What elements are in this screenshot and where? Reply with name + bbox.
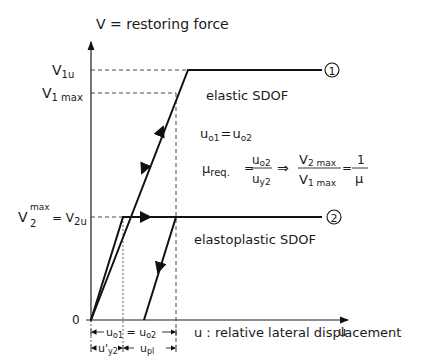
tick-v1u: V1u bbox=[52, 62, 74, 80]
svg-text:2: 2 bbox=[30, 218, 36, 229]
svg-text:uo2: uo2 bbox=[252, 153, 271, 168]
svg-text:V1 max: V1 max bbox=[299, 172, 337, 188]
tick-v2: V max 2 = V2u bbox=[18, 202, 87, 229]
elastic-curve bbox=[91, 70, 322, 320]
svg-text:⇒: ⇒ bbox=[277, 160, 289, 176]
svg-text:V2 max: V2 max bbox=[299, 152, 337, 168]
elastoplastic-label: elastoplastic SDOF bbox=[194, 232, 316, 247]
svg-text:upl: upl bbox=[140, 342, 154, 356]
x-axis-description: u : relative lateral displacement bbox=[194, 325, 401, 340]
svg-text:μ: μ bbox=[355, 171, 363, 186]
force-displacement-diagram: V = restoring force u 0 V1u V1 max V max… bbox=[0, 0, 427, 361]
svg-text:=: = bbox=[342, 161, 352, 175]
elastic-label: elastic SDOF bbox=[206, 88, 288, 103]
svg-text:1: 1 bbox=[329, 65, 336, 78]
equation-mu-req: μreq. = uo2 uy2 ⇒ V2 max V1 max = 1 μ bbox=[202, 152, 368, 188]
svg-text:u'y2: u'y2 bbox=[98, 342, 118, 356]
dimension-uo: uo1 = uo2 bbox=[91, 326, 176, 340]
unloading-arrow bbox=[142, 166, 145, 173]
origin-label: 0 bbox=[72, 313, 80, 327]
svg-text:V: V bbox=[18, 209, 28, 225]
svg-text:uy2: uy2 bbox=[252, 172, 271, 187]
svg-text:V1u: V1u bbox=[52, 62, 74, 80]
equation-uo1-uo2: uo1=uo2 bbox=[200, 126, 252, 143]
svg-text:V1 max: V1 max bbox=[42, 85, 83, 103]
y-axis-title: V = restoring force bbox=[96, 16, 229, 32]
svg-text:uo1=uo2: uo1=uo2 bbox=[200, 126, 252, 143]
svg-text:2: 2 bbox=[331, 212, 338, 225]
dimension-uy2-upl: u'y2 upl bbox=[91, 342, 176, 356]
svg-text:1: 1 bbox=[357, 153, 365, 167]
svg-text:uo1 = uo2: uo1 = uo2 bbox=[106, 326, 156, 340]
tick-v1max: V1 max bbox=[42, 85, 83, 103]
svg-text:max: max bbox=[30, 202, 50, 212]
svg-text:μreq.: μreq. bbox=[202, 161, 230, 178]
svg-text:= V2u: = V2u bbox=[52, 211, 87, 227]
